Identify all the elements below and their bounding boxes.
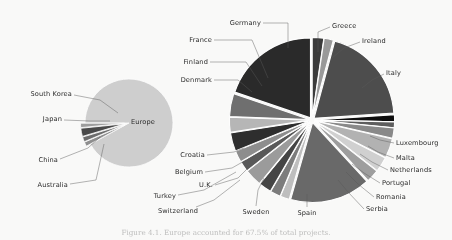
pie-label-spain: Spain: [297, 210, 316, 217]
leader-uk: [215, 168, 248, 185]
pie-label-u-k: U.K.: [199, 182, 213, 189]
pie-label-greece: Greece: [332, 23, 356, 30]
pie-label-turkey: Turkey: [154, 193, 176, 200]
pie-label-ireland: Ireland: [362, 38, 386, 45]
pie-label-italy: Italy: [386, 70, 401, 77]
pie-label-germany: Germany: [230, 20, 261, 27]
pie-label-malta: Malta: [396, 155, 415, 162]
pie-label-romania: Romania: [376, 194, 406, 201]
pie-label-belgium: Belgium: [175, 169, 203, 176]
pie-label-serbia: Serbia: [366, 206, 388, 213]
pie-label-switzerland: Switzerland: [158, 208, 198, 215]
pie-label-sweden: Sweden: [243, 209, 270, 216]
pie-label-australia: Australia: [37, 182, 68, 189]
pie-label-portugal: Portugal: [382, 180, 411, 187]
europe-countries-pie: [229, 37, 394, 202]
pie-label-netherlands: Netherlands: [390, 167, 432, 174]
pie-label-china: China: [38, 157, 58, 164]
pie-label-south-korea: South Korea: [30, 91, 72, 98]
pie-label-croatia: Croatia: [180, 152, 205, 159]
figure-caption: Figure 4.1. Europe accounted for 67.5% o…: [0, 228, 452, 240]
pie-label-denmark: Denmark: [181, 77, 212, 84]
pie-label-finland: Finland: [183, 59, 208, 66]
pie-label-france: France: [189, 37, 212, 44]
pie-label-japan: Japan: [43, 116, 62, 123]
figure-container: South KoreaJapanChinaAustraliaEuropeDenm…: [0, 0, 452, 240]
pie-label-luxembourg: Luxembourg: [396, 140, 439, 147]
regions-pie: [81, 79, 173, 167]
pie-label-europe: Europe: [131, 119, 155, 126]
leader-belgium: [205, 160, 246, 172]
